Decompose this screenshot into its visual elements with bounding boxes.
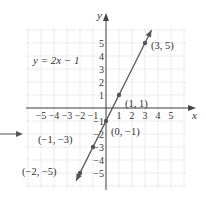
data-point	[78, 171, 82, 175]
point-label: (3, 5)	[151, 40, 174, 52]
y-tick-label: −4	[93, 155, 104, 166]
graph-figure: −5−4−3−2−11234554321−1−2−3−4−5 (−2, −5)(…	[0, 0, 206, 202]
y-tick-label: 1	[99, 90, 104, 101]
y-tick-label: −1	[93, 116, 104, 127]
x-tick-label: −2	[75, 110, 86, 121]
x-tick-label: 5	[169, 110, 174, 121]
y-tick-label: 5	[99, 38, 104, 49]
y-tick-label: 2	[99, 77, 104, 88]
point-label: (1, 1)	[125, 98, 148, 110]
y-tick-label: 4	[99, 51, 104, 62]
point-label: (−2, −5)	[22, 166, 57, 178]
x-tick-label: 3	[143, 110, 148, 121]
point-label: (0, −1)	[111, 126, 140, 138]
equation-label: y = 2x − 1	[32, 54, 80, 66]
x-tick-label: 1	[117, 110, 122, 121]
y-tick-label: −5	[93, 168, 104, 179]
pointer-arrow-icon	[0, 131, 23, 137]
data-point	[143, 41, 147, 45]
data-point	[91, 145, 95, 149]
data-point	[104, 119, 108, 123]
x-tick-label: −3	[62, 110, 73, 121]
point-label: (−1, −3)	[38, 134, 73, 146]
data-point	[117, 93, 121, 97]
x-tick-label: 2	[130, 110, 135, 121]
x-tick-label: −4	[49, 110, 60, 121]
y-axis-label: y	[96, 9, 102, 21]
x-axis-label: x	[191, 109, 197, 121]
y-tick-label: 3	[99, 64, 104, 75]
x-tick-label: −5	[36, 110, 47, 121]
x-tick-label: 4	[156, 110, 161, 121]
coordinate-plane: −5−4−3−2−11234554321−1−2−3−4−5 (−2, −5)(…	[0, 0, 206, 202]
